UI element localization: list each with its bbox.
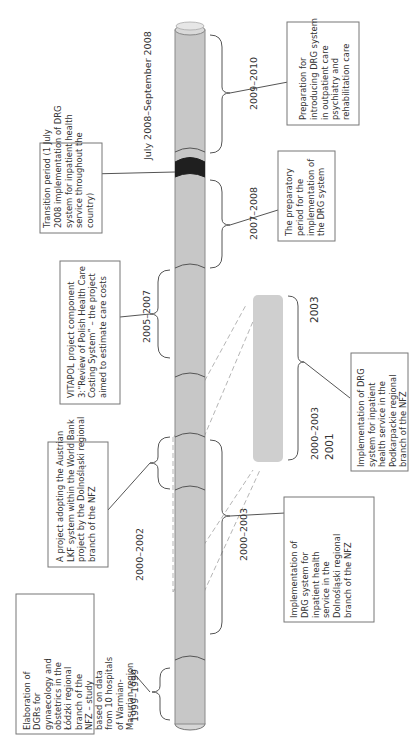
period-label-2005-2007: 2005–2007	[141, 290, 152, 343]
event-box-2000-2003-dolnoslaski: Implementation of DRG system for inpatie…	[284, 497, 374, 622]
svg-text:A project adopting the Austria: A project adopting the Austrian LKF syst…	[55, 414, 97, 562]
period-label-2009-2010: 2009–2010	[248, 57, 259, 110]
period-label-2000-2002: 2000–2002	[134, 528, 145, 581]
inset-end-year: 2003	[308, 296, 320, 323]
inset-period-label: 2000–2003	[309, 407, 320, 460]
inset-bar-podkarpackie	[253, 295, 304, 462]
event-box-2000-2002: A project adopting the Austrian LKF syst…	[48, 414, 108, 567]
svg-text:VITAPOL project component: VITAPOL project component 3:“Review of P…	[66, 263, 108, 398]
event-box-2005-2007: VITAPOL project component 3:“Review of P…	[60, 261, 120, 404]
timeline-tube	[175, 22, 205, 730]
event-box-podkarpackie: Implementation of DRG system for inpatie…	[351, 353, 408, 471]
period-label-transition: July 2008–September 2008	[142, 31, 153, 161]
event-box-2007-2008: The preparatory period for the implement…	[278, 151, 335, 241]
event-box-2009-2010: Preparation for introducing DRG system i…	[287, 15, 359, 125]
period-label-1999: 1999–1999	[129, 669, 140, 722]
event-box-1999: Elaboration of DGRs for gynaecology and …	[16, 594, 135, 734]
inset-start-year: 2001	[323, 433, 335, 460]
svg-text:The preparatory period f: The preparatory period for the implement…	[284, 156, 326, 237]
period-label-2007-2008: 2007–2008	[248, 187, 259, 240]
drg-timeline-diagram: Elaboration of DGRs for gynaecology and …	[0, 0, 417, 746]
period-label-2000-2003: 2000–2003	[238, 508, 249, 561]
event-box-transition-2008: Transition period (1 July 2008 implement…	[40, 103, 102, 233]
